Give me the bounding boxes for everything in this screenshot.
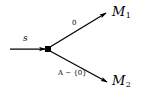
m1-subscript: 1: [126, 11, 131, 20]
edge-to-m1: [50, 13, 106, 47]
edge-label-to-m2: A − {0}: [58, 70, 87, 77]
target-node-label-m2: M2: [112, 74, 130, 87]
edge-label-to-m1: 0: [72, 20, 76, 27]
m1-letter: M: [112, 4, 125, 19]
m2-subscript: 2: [126, 80, 131, 89]
edge-to-m2: [50, 51, 107, 82]
m2-letter: M: [112, 73, 125, 88]
target-node-label-m1: M1: [112, 5, 130, 18]
edge-label-set: {0}: [73, 69, 86, 77]
branching-transition-diagram: s 0 A − {0} M1 M2: [0, 0, 145, 98]
source-state-label: s: [23, 34, 28, 43]
